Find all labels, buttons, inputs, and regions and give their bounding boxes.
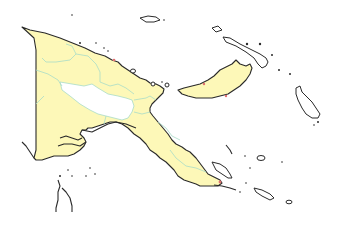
bougainville: [296, 86, 320, 118]
manus-island: [140, 16, 160, 22]
papua-new-guinea-map: [0, 0, 341, 229]
southern-coast-fragment: [56, 180, 72, 212]
new-britain: [178, 60, 252, 98]
new-ireland: [223, 37, 268, 68]
milne-bay-islands: [212, 162, 232, 178]
southwest-coast: [22, 142, 34, 158]
southeast-tip: [214, 185, 236, 190]
